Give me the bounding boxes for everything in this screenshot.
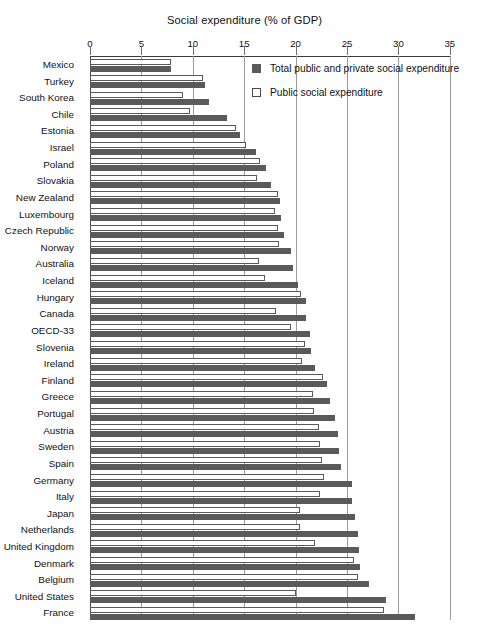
chart-row: Sweden [0,438,489,455]
category-label: Sweden [0,439,74,454]
bar-total-social-expenditure [90,248,291,254]
bar-public-social-expenditure [90,75,203,81]
category-label: Hungary [0,290,74,305]
bar-total-social-expenditure [90,448,339,454]
category-label: Turkey [0,74,74,89]
category-label: Norway [0,240,74,255]
bar-total-social-expenditure [90,115,227,121]
chart-row: United Kingdom [0,538,489,555]
chart-row: Denmark [0,555,489,572]
x-tick-mark [244,46,245,55]
chart-row: Slovenia [0,339,489,356]
bar-total-social-expenditure [90,614,415,620]
bar-total-social-expenditure [90,498,352,504]
bar-public-social-expenditure [90,474,324,480]
chart-row: Estonia [0,122,489,139]
bar-public-social-expenditure [90,59,171,65]
chart-row: OECD-33 [0,322,489,339]
bar-public-social-expenditure [90,108,190,114]
chart-row: Germany [0,472,489,489]
bar-total-social-expenditure [90,464,341,470]
chart-row: New Zealand [0,189,489,206]
x-tick-mark [296,46,297,55]
bar-total-social-expenditure [90,149,256,155]
bar-total-social-expenditure [90,531,358,537]
bar-public-social-expenditure [90,424,319,430]
bar-total-social-expenditure [90,331,310,337]
bar-total-social-expenditure [90,564,360,570]
category-label: Denmark [0,556,74,571]
bar-total-social-expenditure [90,165,266,171]
x-tick-mark [450,46,451,55]
category-label: United Kingdom [0,539,74,554]
bar-public-social-expenditure [90,208,275,214]
bar-total-social-expenditure [90,481,352,487]
bar-total-social-expenditure [90,66,171,72]
category-label: Canada [0,306,74,321]
chart-row: Czech Republic [0,222,489,239]
bar-public-social-expenditure [90,92,183,98]
bar-public-social-expenditure [90,557,354,563]
bar-total-social-expenditure [90,215,281,221]
category-label: Japan [0,506,74,521]
category-label: Poland [0,157,74,172]
chart-row: Luxembourg [0,206,489,223]
bar-public-social-expenditure [90,374,323,380]
bar-public-social-expenditure [90,308,276,314]
bar-public-social-expenditure [90,291,301,297]
bar-public-social-expenditure [90,391,313,397]
category-label: Australia [0,256,74,271]
chart-row: Greece [0,388,489,405]
x-tick-mark [398,46,399,55]
x-tick-mark [90,46,91,55]
bar-public-social-expenditure [90,175,257,181]
chart-row: Iceland [0,272,489,289]
x-tick-mark [141,46,142,55]
bar-public-social-expenditure [90,590,296,596]
bar-public-social-expenditure [90,191,278,197]
social-expenditure-chart: Social expenditure (% of GDP) 0510152025… [0,0,489,628]
chart-row: Spain [0,455,489,472]
bar-total-social-expenditure [90,265,293,271]
legend-label-total: Total public and private social expendit… [270,62,482,76]
category-label: France [0,605,74,620]
bar-public-social-expenditure [90,408,314,414]
bar-public-social-expenditure [90,275,265,281]
bar-public-social-expenditure [90,258,259,264]
chart-legend: Total public and private social expendit… [252,62,482,110]
category-label: Mexico [0,57,74,72]
bar-total-social-expenditure [90,82,205,88]
bar-public-social-expenditure [90,125,236,131]
category-label: Germany [0,473,74,488]
bar-total-social-expenditure [90,381,327,387]
chart-row: Hungary [0,289,489,306]
category-label: Estonia [0,123,74,138]
bar-total-social-expenditure [90,348,311,354]
bar-total-social-expenditure [90,182,271,188]
bar-public-social-expenditure [90,540,315,546]
category-label: New Zealand [0,190,74,205]
x-tick-mark [193,46,194,55]
bar-public-social-expenditure [90,574,358,580]
category-label: Greece [0,389,74,404]
bar-total-social-expenditure [90,315,306,321]
category-label: Luxembourg [0,207,74,222]
bar-public-social-expenditure [90,241,279,247]
category-label: Czech Republic [0,223,74,238]
bar-public-social-expenditure [90,491,320,497]
bar-public-social-expenditure [90,507,300,513]
bar-public-social-expenditure [90,607,384,613]
bar-total-social-expenditure [90,198,280,204]
category-label: Chile [0,107,74,122]
category-label: Finland [0,373,74,388]
category-label: South Korea [0,90,74,105]
bar-public-social-expenditure [90,441,320,447]
bar-public-social-expenditure [90,524,300,530]
chart-row: Poland [0,156,489,173]
category-label: Netherlands [0,522,74,537]
bar-total-social-expenditure [90,415,335,421]
legend-swatch-public-icon [252,88,261,97]
category-label: Slovenia [0,340,74,355]
legend-label-public: Public social expenditure [270,86,482,100]
chart-row: Portugal [0,405,489,422]
